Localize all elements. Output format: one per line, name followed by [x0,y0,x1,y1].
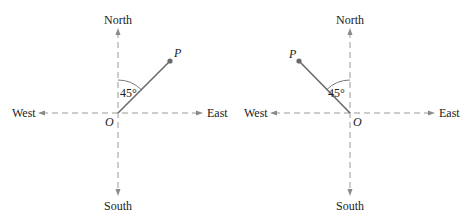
west-arrowhead-icon [38,111,45,116]
south-label: South [104,199,132,213]
left-compass-diagram: North South West East O P 45° [12,13,228,213]
origin-label: O [105,115,114,129]
west-label: West [12,106,36,120]
south-arrowhead-icon [116,189,121,196]
north-label: North [336,13,364,27]
diagram-canvas: North South West East O P 45° North Sout… [0,0,468,218]
east-label: East [439,106,460,120]
south-arrowhead-icon [348,189,353,196]
point-p-marker [167,58,172,63]
east-label: East [207,106,228,120]
point-p-marker [296,58,301,63]
west-label: West [244,106,268,120]
origin-label: O [353,115,362,129]
angle-label: 45° [328,86,345,100]
south-label: South [336,199,364,213]
north-arrowhead-icon [348,28,353,35]
north-arrowhead-icon [116,28,121,35]
right-compass-diagram: North South West East O P 45° [244,13,460,213]
angle-label: 45° [120,86,137,100]
north-label: North [104,13,132,27]
west-arrowhead-icon [270,111,277,116]
east-arrowhead-icon [428,111,435,116]
point-p-label: P [173,46,182,60]
compass-diagrams: North South West East O P 45° North Sout… [0,0,468,218]
east-arrowhead-icon [196,111,203,116]
point-p-label: P [288,47,297,61]
